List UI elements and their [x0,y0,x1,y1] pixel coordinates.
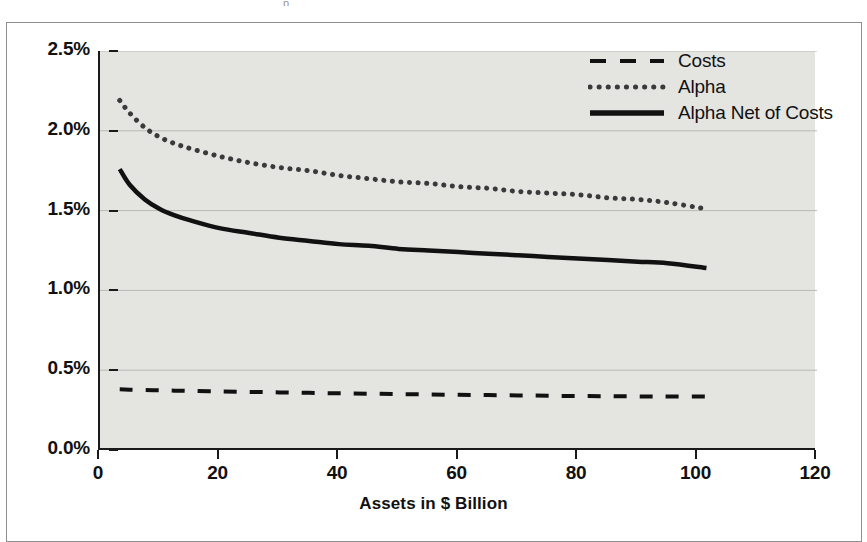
y-tick-label: 2.0% [26,118,90,140]
series-line-alpha-net-of-costs [120,169,707,268]
legend-label: Costs [666,50,726,72]
x-tick-label: 120 [785,462,845,484]
y-tick-mark [109,130,118,132]
y-tick-label: 2.5% [26,38,90,60]
legend-swatch-dashed [588,54,666,68]
x-tick-label: 20 [188,462,248,484]
x-tick-mark [97,450,99,459]
series-lines [120,100,707,396]
x-tick-mark [814,450,816,459]
legend-swatch-dotted [588,80,666,94]
y-axis-ticks: 0.0%0.5%1.0%1.5%2.0%2.5% [20,0,90,533]
y-tick-mark [109,50,118,52]
y-tick-label: 0.5% [26,357,90,379]
y-tick-mark [109,369,118,371]
x-tick-mark [575,450,577,459]
y-tick-label: 1.0% [26,277,90,299]
legend-item: Alpha [588,74,818,100]
y-tick-mark [109,210,118,212]
x-tick-mark [217,450,219,459]
y-tick-label: 0.0% [26,437,90,459]
x-tick-label: 100 [666,462,726,484]
clipped-caption-fragment: p [283,0,293,6]
legend-swatch-solid [588,106,666,120]
legend-label: Alpha [666,76,726,98]
x-tick-label: 60 [427,462,487,484]
y-tick-mark [109,289,118,291]
x-tick-label: 40 [307,462,367,484]
series-line-costs [120,389,707,396]
x-tick-label: 0 [68,462,128,484]
x-tick-mark [695,450,697,459]
x-tick-label: 80 [546,462,606,484]
y-tick-mark [109,449,118,451]
y-tick-label: 1.5% [26,198,90,220]
x-axis-title: Assets in $ Billion [0,494,867,514]
legend-label: Alpha Net of Costs [666,102,833,124]
legend-item: Alpha Net of Costs [588,100,818,126]
legend-item: Costs [588,48,818,74]
x-tick-mark [456,450,458,459]
chart-legend: CostsAlphaAlpha Net of Costs [588,48,818,126]
x-tick-mark [336,450,338,459]
